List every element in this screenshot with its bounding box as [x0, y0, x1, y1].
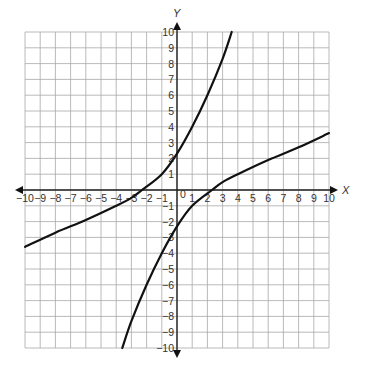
x-tick-label: 5 — [250, 192, 256, 204]
upper-curve — [25, 32, 232, 247]
x-axis-label: X — [341, 184, 350, 196]
x-tick-label: −10 — [16, 192, 34, 204]
y-tick-label: 6 — [168, 89, 174, 101]
y-tick-label: −6 — [162, 279, 174, 291]
y-tick-label: 4 — [168, 121, 174, 133]
y-tick-label: 7 — [168, 73, 174, 85]
x-tick-label: 6 — [265, 192, 271, 204]
y-tick-label: 9 — [168, 42, 174, 54]
x-tick-label: −5 — [95, 192, 107, 204]
y-tick-label: −10 — [156, 342, 174, 354]
x-tick-label: 7 — [280, 192, 286, 204]
coordinate-plane: X Y −10−9−8−7−6−5−4−3−2−112345678910−10−… — [0, 0, 367, 367]
y-tick-label: −5 — [162, 263, 174, 275]
y-tick-label: 10 — [162, 26, 174, 38]
y-axis-up-arrow-icon — [173, 22, 181, 30]
x-tick-label: −6 — [80, 192, 92, 204]
y-tick-label: 8 — [168, 58, 174, 70]
y-tick-label: −2 — [162, 216, 174, 228]
x-tick-label: 1 — [189, 192, 195, 204]
lower-curve — [122, 133, 329, 348]
y-tick-label: 5 — [168, 105, 174, 117]
y-tick-label: −9 — [162, 326, 174, 338]
origin-label: 0 — [180, 188, 186, 200]
x-tick-label: 3 — [220, 192, 226, 204]
y-tick-label: 1 — [168, 168, 174, 180]
axes: X Y — [15, 7, 350, 358]
y-tick-label: 3 — [168, 137, 174, 149]
y-tick-label: −8 — [162, 310, 174, 322]
x-tick-label: −8 — [49, 192, 61, 204]
x-tick-label: −2 — [141, 192, 153, 204]
y-axis-label: Y — [173, 7, 181, 19]
y-tick-label: −1 — [162, 200, 174, 212]
x-tick-label: −7 — [65, 192, 77, 204]
x-tick-label: 4 — [235, 192, 241, 204]
x-tick-label: 9 — [311, 192, 317, 204]
x-tick-label: −4 — [110, 192, 122, 204]
x-tick-label: 10 — [323, 192, 335, 204]
y-tick-label: −7 — [162, 295, 174, 307]
y-axis-down-arrow-icon — [173, 350, 181, 358]
x-tick-label: 8 — [296, 192, 302, 204]
x-tick-label: −9 — [34, 192, 46, 204]
